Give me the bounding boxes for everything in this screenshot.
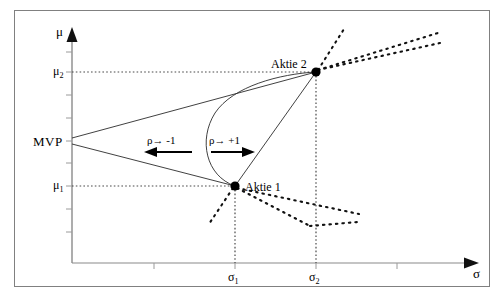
mu2-tick-label: μ2: [53, 64, 64, 80]
asset-1-dotted-rays: [209, 188, 359, 226]
sigma-axis-label: σ: [473, 266, 480, 282]
rho-plus-one-label: ρ→ +1: [209, 134, 240, 146]
mvp-upper-leg: [72, 72, 316, 138]
rho-minus-arrowhead: [144, 147, 157, 157]
sigma1-tick-subscript: 1: [234, 277, 238, 286]
mu-axis-ticks: [66, 52, 72, 232]
mu1-tick-subscript: 1: [59, 185, 63, 194]
correlation-curve: [206, 72, 316, 186]
mvp-envelope: [72, 72, 316, 186]
mu-axis-label: μ: [56, 24, 63, 40]
asset-2-label: Aktie 2: [271, 57, 307, 72]
mu-axis-arrowhead: [67, 27, 78, 42]
mu1-tick-label: μ1: [53, 178, 64, 194]
mvp-label: MVP: [33, 134, 63, 150]
rho-plus-arrowhead: [242, 147, 255, 157]
mu2-tick-subscript: 2: [59, 71, 63, 80]
asset-2-ray-steep: [318, 29, 344, 70]
asset-2-dotted-rays: [318, 29, 440, 70]
sigma1-tick-label: σ1: [228, 270, 239, 286]
asset-1-ray-down-right-c: [310, 222, 358, 226]
guide-lines: [72, 72, 316, 263]
sigma-axis-ticks: [154, 263, 397, 269]
sigma2-tick-subscript: 2: [315, 277, 319, 286]
asset-1-label: Aktie 1: [245, 180, 281, 195]
asset-1-ray-down-left: [209, 188, 233, 224]
asset-2-ray-shallow: [318, 43, 440, 70]
rho-plus-one-line: [235, 72, 316, 186]
asset-1-marker[interactable]: [230, 181, 239, 190]
rho-minus-one-label: ρ→ -1: [147, 134, 175, 146]
rho-direction-arrows: [144, 147, 255, 157]
asset-2-ray-middle: [318, 33, 438, 70]
sigma2-tick-label: σ2: [309, 270, 320, 286]
diagram-canvas: [0, 0, 503, 300]
asset-2-marker[interactable]: [311, 67, 320, 76]
figure-root: μ σ μ2 μ1 σ1 σ2 MVP Aktie 2 Aktie 1 ρ→ -…: [0, 0, 503, 300]
